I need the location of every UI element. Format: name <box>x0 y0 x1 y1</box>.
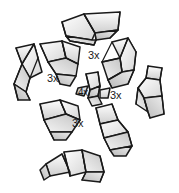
quantity-label-right: 3x <box>110 90 121 101</box>
piece-top-center <box>62 12 120 45</box>
diagram-canvas <box>0 0 179 193</box>
piece-bottom-center <box>40 150 104 182</box>
quantity-label-left: 3x <box>47 73 58 84</box>
assembly-diagram: 3x 3x 4x 3x 3x <box>0 0 179 193</box>
piece-lower-right <box>96 104 132 156</box>
piece-center-junction <box>86 72 102 106</box>
quantity-label-center: 4x <box>78 88 88 98</box>
piece-upper-right <box>102 38 136 88</box>
piece-upper-left <box>40 41 80 86</box>
quantity-label-top-right: 3x <box>88 50 99 61</box>
quantity-label-bottom: 3x <box>72 118 83 129</box>
piece-right-outer <box>136 66 164 118</box>
piece-left-outer <box>14 44 42 100</box>
